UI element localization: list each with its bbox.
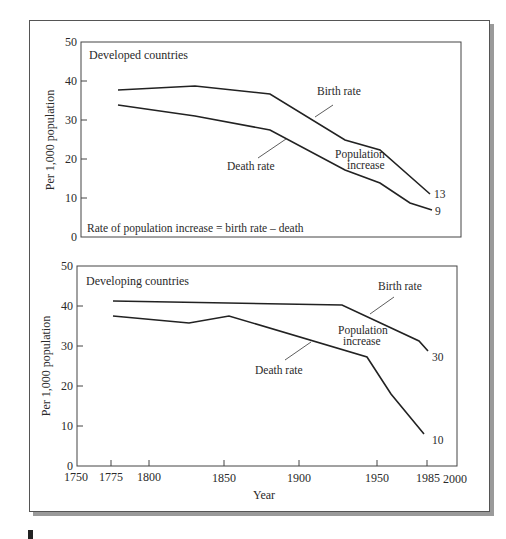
chart-developed: 0 10 20 30 40 50 Per 1,000 population De… [43,35,461,244]
figure-svg: 0 10 20 30 40 50 Per 1,000 population De… [0,0,506,539]
birth-rate-label-top: Birth rate [317,85,361,97]
y-tick-label: 30 [61,339,73,353]
x-axis-ticks-bottom [111,460,427,466]
y-tick-label: 40 [65,74,77,88]
y-tick-labels-top: 0 10 20 30 40 50 [65,35,77,244]
x-axis-label-bottom: Year [253,488,275,502]
chart-title-top: Developed countries [89,48,188,62]
y-tick-label: 10 [65,191,77,205]
x-tick-label: 2000 [443,472,467,486]
x-tick-label: 1775 [99,470,123,484]
end-value-death-top: 9 [435,205,441,217]
end-value-birth-top: 13 [434,188,446,200]
y-tick-label: 20 [65,152,77,166]
chart-developing: 0 10 20 30 40 50 1750 1775 1800 1850 190… [39,259,467,502]
x-tick-label: 1985 [416,471,440,485]
plot-box-top [81,42,461,237]
x-tick-label: 1800 [137,470,161,484]
y-tick-label: 0 [71,230,77,244]
formula-annotation: Rate of population increase = birth rate… [87,222,304,235]
y-tick-label: 20 [61,379,73,393]
death-label-leader [258,139,286,158]
y-axis-top [81,81,87,198]
death-label-leader [285,342,311,360]
chart-title-bottom: Developing countries [86,274,189,288]
x-tick-label: 1850 [212,471,236,485]
y-tick-label: 50 [61,259,73,273]
birth-rate-label-bottom: Birth rate [378,280,422,292]
x-tick-label: 1900 [287,471,311,485]
y-tick-label: 10 [61,419,73,433]
population-increase-label-top-2: increase [347,159,385,171]
y-axis-bottom [77,306,83,426]
death-rate-line-developed [118,105,432,210]
end-value-birth-bottom: 30 [432,351,444,363]
y-tick-label: 40 [61,299,73,313]
birth-label-leader [370,297,394,314]
y-tick-label: 30 [65,113,77,127]
caption-marker [28,530,33,539]
y-axis-label-bottom: Per 1,000 population [39,316,53,416]
birth-label-leader [315,105,333,117]
y-tick-labels-bottom: 0 10 20 30 40 50 [61,259,73,473]
population-increase-label-bottom-2: increase [343,335,381,347]
birth-rate-line-developed [118,86,430,194]
end-value-death-bottom: 10 [432,434,444,446]
death-rate-label-top: Death rate [227,160,275,172]
y-axis-label-top: Per 1,000 population [43,90,57,190]
x-tick-labels-bottom: 1750 1775 1800 1850 1900 1950 1985 2000 [64,470,467,486]
x-tick-label: 1950 [365,471,389,485]
death-rate-label-bottom: Death rate [255,364,303,376]
x-tick-label: 1750 [64,470,88,484]
y-tick-label: 50 [65,35,77,49]
